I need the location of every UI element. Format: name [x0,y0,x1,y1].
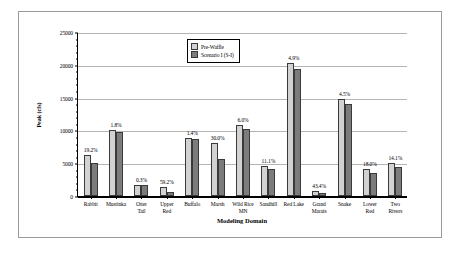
bar-rabbit-1[interactable] [91,163,98,196]
y-axis-title: Peak (cfs) [36,102,42,127]
chart-legend: Pre-WaffleScenario I (S-I) [187,39,240,63]
bar-sandhill-0[interactable] [261,166,268,197]
bar-lower-red-0[interactable] [363,169,370,196]
bar-value-label: 43.4% [312,183,326,189]
bar-marsh-1[interactable] [218,159,225,196]
bar-otter-tail-1[interactable] [141,185,148,196]
bar-group-snake[interactable]: 4.5%Snake [332,33,357,196]
bar-red-lake-0[interactable] [287,63,294,196]
x-axis-label-two-rivers: TwoRivers [388,201,402,215]
bar-group-two-rivers[interactable]: 14.1%TwoRivers [383,33,408,196]
x-tick [294,196,295,199]
figure-frame: Peak (cfs) 050001000015000200002500019.2… [18,11,442,238]
y-tick-label: 15000 [60,96,73,102]
bar-value-label: 14.1% [388,155,402,161]
bar-marsh-0[interactable] [211,143,218,196]
bar-value-label: 4.5% [339,91,350,97]
bar-value-label: 0.3% [136,177,147,183]
bar-value-label: 1.8% [111,122,122,128]
y-tick-0 [75,197,78,198]
bar-group-otter-tail[interactable]: 0.3%OtterTail [129,33,154,196]
bar-two-rivers-0[interactable] [388,163,395,196]
x-axis-label-upper-red: UpperRed [160,201,173,215]
x-tick [167,196,168,199]
x-axis-label-rabbit: Rabbit [84,201,98,208]
legend-item-1[interactable]: Scenario I (S-I) [191,51,234,58]
bar-two-rivers-1[interactable] [395,167,402,196]
bar-wild-rice-mn-1[interactable] [243,129,250,196]
x-axis-label-grand-marais: GrandMarais [312,201,327,215]
bar-value-label: 59.2% [160,179,174,185]
legend-item-0[interactable]: Pre-Waffle [191,43,234,50]
x-tick [345,196,346,199]
x-tick [116,196,117,199]
bar-buffalo-0[interactable] [185,138,192,196]
bar-red-lake-1[interactable] [294,69,301,196]
bar-mustinka-0[interactable] [109,130,116,196]
bar-grand-marais-0[interactable] [312,191,319,196]
bar-value-label: 6.0% [237,117,248,123]
x-axis-label-mustinka: Mustinka [106,201,126,208]
x-axis-label-otter-tail: OtterTail [136,201,147,215]
bar-sandhill-1[interactable] [268,169,275,196]
x-tick [91,196,92,199]
bar-snake-0[interactable] [338,99,345,196]
bar-value-label: 11.1% [262,158,276,164]
x-axis-label-snake: Snake [338,201,351,208]
bar-group-grand-marais[interactable]: 43.4%GrandMarais [306,33,331,196]
bar-lower-red-1[interactable] [370,173,377,196]
x-tick [395,196,396,199]
bar-group-lower-red[interactable]: 18.0%LowerRed [357,33,382,196]
legend-swatch-0 [191,43,198,50]
legend-swatch-1 [191,51,198,58]
x-axis-label-wild-rice-mn: Wild RiceMN [232,201,253,215]
y-tick-label: 0 [70,194,73,200]
bar-group-mustinka[interactable]: 1.8%Mustinka [103,33,128,196]
legend-label: Pre-Waffle [201,44,224,50]
bar-upper-red-1[interactable] [167,192,174,196]
x-tick [192,196,193,199]
x-axis-label-sandhill: Sandhill [260,201,278,208]
bar-group-rabbit[interactable]: 19.2%Rabbit [78,33,103,196]
x-axis-label-lower-red: LowerRed [363,201,377,215]
x-tick [268,196,269,199]
bar-upper-red-0[interactable] [160,187,167,196]
x-tick [141,196,142,199]
bar-wild-rice-mn-0[interactable] [236,125,243,196]
bar-group-sandhill[interactable]: 11.1%Sandhill [256,33,281,196]
plot-area: 050001000015000200002500019.2%Rabbit1.8%… [77,33,407,197]
bar-grand-marais-1[interactable] [319,193,326,196]
bar-group-red-lake[interactable]: 4.9%Red Lake [281,33,306,196]
x-tick [243,196,244,199]
bar-mustinka-1[interactable] [116,132,123,196]
bar-value-label: 30.0% [211,135,225,141]
y-tick-label: 10000 [60,128,73,134]
x-tick [319,196,320,199]
bar-rabbit-0[interactable] [84,155,91,196]
bar-value-label: 4.9% [288,55,299,61]
y-tick-label: 5000 [62,161,73,167]
bar-value-label: 18.0% [363,161,377,167]
x-tick [218,196,219,199]
y-tick-label: 25000 [60,30,73,36]
x-axis-label-buffalo: Buffalo [184,201,200,208]
bar-snake-1[interactable] [345,104,352,196]
bar-value-label: 19.2% [84,147,98,153]
x-axis-label-marsh: Marsh [211,201,225,208]
bar-group-upper-red[interactable]: 59.2%UpperRed [154,33,179,196]
y-tick-label: 20000 [60,63,73,69]
legend-label: Scenario I (S-I) [201,52,234,58]
x-axis-label-red-lake: Red Lake [284,201,304,208]
x-tick [370,196,371,199]
bar-value-label: 1.4% [187,130,198,136]
bar-buffalo-1[interactable] [192,139,199,196]
bar-otter-tail-0[interactable] [134,185,141,196]
x-axis-title: Modeling Domain [77,217,407,224]
